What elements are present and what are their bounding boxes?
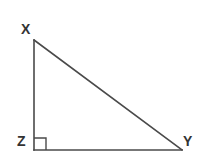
triangle-figure: X Z Y (0, 0, 199, 161)
vertex-label-x: X (21, 22, 30, 36)
vertex-label-y: Y (183, 134, 192, 148)
vertex-label-z: Z (17, 134, 26, 148)
